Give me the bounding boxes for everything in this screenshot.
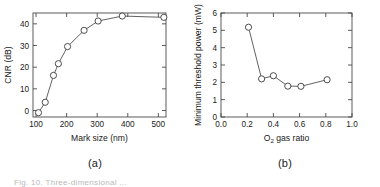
x-axis-title: Mark size (nm) [71,133,128,143]
y-tick-label: 30 [20,42,30,51]
y-tick-label: 40 [20,20,30,29]
y-tick-label: 3 [212,61,217,70]
y-tick-label: 6 [212,9,217,18]
data-point [259,76,265,82]
chart-panel-a: 100200300400500010203040Mark size (nm)CN… [0,0,190,187]
x-tick-label: 1.0 [346,120,358,129]
y-tick-label: 4 [212,44,217,53]
y-tick-label: 0 [24,107,29,116]
chart-panel-b: 0.00.20.40.60.81.00123456O2 gas ratioMin… [190,0,380,187]
x-tick-label: 0.8 [320,120,332,129]
chart-a-canvas: 100200300400500010203040Mark size (nm)CN… [0,0,190,150]
x-tick-label: 400 [121,120,135,129]
x-tick-label: 500 [152,120,166,129]
data-point [35,110,41,116]
data-point [81,27,87,33]
data-point [161,14,167,20]
plot-frame [33,13,166,117]
data-point [285,83,291,89]
x-tick-label: 0.2 [242,120,254,129]
data-point [119,13,125,19]
chart-b-canvas: 0.00.20.40.60.81.00123456O2 gas ratioMin… [190,0,380,150]
y-axis-title: CNR (dB) [3,46,13,83]
data-point [324,77,330,83]
data-point [64,43,70,49]
panel-b-label: (b) [190,157,380,169]
data-point [298,83,304,89]
x-tick-label: 0.4 [268,120,280,129]
figure-root: 100200300400500010203040Mark size (nm)CN… [0,0,380,187]
x-axis-title: O2 gas ratio [264,133,310,144]
y-tick-label: 10 [20,85,30,94]
data-point [95,18,101,24]
y-tick-label: 5 [212,26,217,35]
data-point [55,61,61,67]
y-tick-label: 20 [20,63,30,72]
x-tick-label: 100 [29,120,43,129]
data-point [270,73,276,79]
y-tick-label: 1 [212,96,217,105]
plot-frame [221,13,352,117]
panel-a-label: (a) [0,157,190,169]
x-tick-label: 0.0 [215,120,227,129]
data-point [50,72,56,78]
y-axis-title: Minimum threshold power (mW) [193,4,203,126]
y-tick-label: 2 [212,78,217,87]
x-tick-label: 200 [60,120,74,129]
data-point [42,99,48,105]
x-tick-label: 0.6 [294,120,306,129]
x-tick-label: 300 [90,120,104,129]
data-point [245,24,251,30]
caption-fragment: Fig. 10. Three-dimensional ... [0,178,380,187]
y-tick-label: 0 [212,113,217,122]
